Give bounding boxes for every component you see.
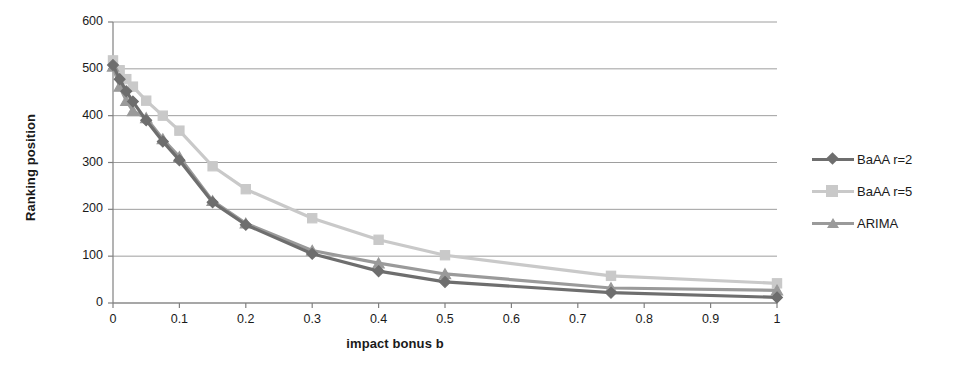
data-marker-square (142, 96, 151, 105)
legend-label: BaAA r=2 (857, 152, 912, 167)
x-tick-label: 0.8 (624, 312, 664, 326)
data-marker-square (208, 162, 217, 171)
legend-item-2[interactable]: BaAA r=5 (812, 175, 912, 207)
y-tick-label: 400 (57, 108, 103, 122)
legend-label: BaAA r=5 (857, 184, 912, 199)
x-tick-label: 0.4 (359, 312, 399, 326)
x-tick-label: 0.9 (691, 312, 731, 326)
x-tick-label: 0 (93, 312, 133, 326)
x-tick-label: 1 (757, 312, 797, 326)
x-tick-label: 0.6 (491, 312, 531, 326)
legend-label: ARIMA (857, 216, 898, 231)
data-marker-square (440, 251, 449, 260)
y-tick-label: 600 (57, 14, 103, 28)
legend-item-1[interactable]: BaAA r=2 (812, 143, 912, 175)
y-tick-label: 200 (57, 201, 103, 215)
y-tick-label: 100 (57, 248, 103, 262)
x-tick-label: 0.2 (226, 312, 266, 326)
chart-legend: BaAA r=2BaAA r=5ARIMA (812, 143, 912, 239)
data-marker-square (606, 271, 615, 280)
y-axis-title: Ranking position (23, 78, 38, 258)
series-line (113, 65, 777, 297)
y-tick-label: 0 (57, 295, 103, 309)
x-tick-marks (113, 303, 777, 308)
x-tick-label: 0.3 (292, 312, 332, 326)
legend-swatch (812, 216, 854, 230)
x-axis-title: impact bonus b (0, 336, 790, 351)
data-marker-square (241, 185, 250, 194)
legend-item-3[interactable]: ARIMA (812, 207, 912, 239)
legend-swatch (812, 184, 854, 198)
legend-marker-square-icon (826, 185, 838, 197)
x-tick-label: 0.7 (558, 312, 598, 326)
legend-swatch (812, 152, 854, 166)
series-baaa-r-5 (108, 56, 781, 288)
legend-marker-diamond-icon (826, 152, 839, 165)
series-baaa-r-2 (108, 60, 783, 303)
data-series-group (107, 56, 782, 303)
data-marker-square (175, 126, 184, 135)
x-tick-label: 0.5 (425, 312, 465, 326)
plot-area (0, 0, 953, 370)
data-marker-square (374, 235, 383, 244)
y-tick-label: 500 (57, 61, 103, 75)
data-marker-square (158, 111, 167, 120)
chart-container: 0100200300400500600 00.10.20.30.40.50.60… (0, 0, 953, 370)
legend-marker-triangle-icon (827, 218, 839, 228)
x-tick-label: 0.1 (159, 312, 199, 326)
data-marker-square (308, 214, 317, 223)
y-tick-label: 300 (57, 155, 103, 169)
series-line (113, 60, 777, 283)
